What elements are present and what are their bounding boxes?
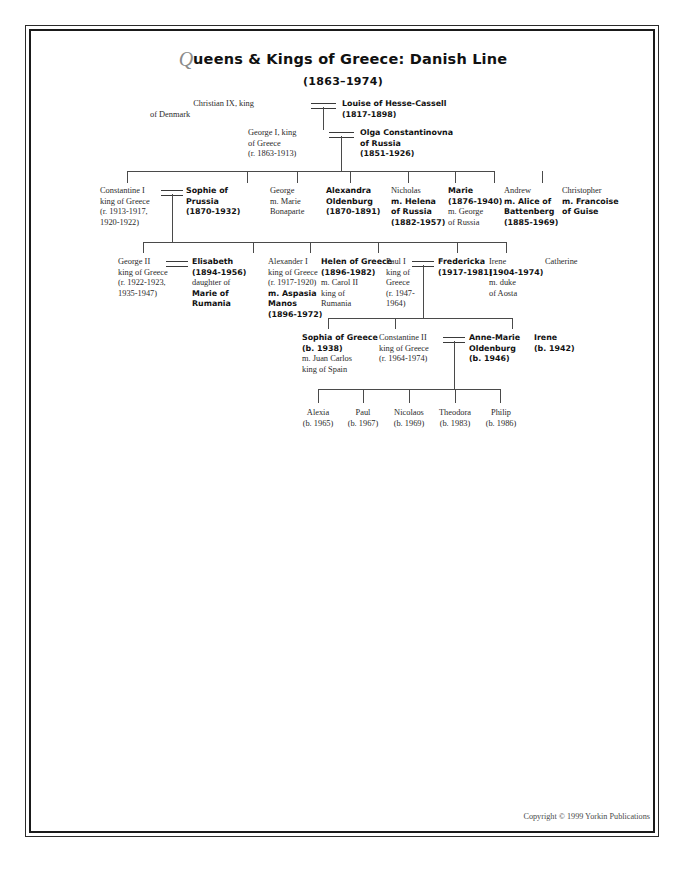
sibling-tick-alexandra <box>297 171 298 183</box>
node-helen-of-greece: Helen of Greece (1896-1982) m. Carol II … <box>321 257 392 310</box>
node-irene-1942: Irene (b. 1942) <box>534 333 575 354</box>
node-alexandra-oldenburg: Alexandra Oldenburg (1870-1891) <box>326 186 380 218</box>
chart-subtitle: (1863–1974) <box>0 75 686 88</box>
sibling-tick-helen <box>310 242 311 253</box>
connector-paul-to-gen5 <box>423 265 424 318</box>
node-child-theodora: Theodora (b. 1983) <box>430 408 480 429</box>
node-christian-ix: Christian IX, king of Denmark <box>150 99 254 120</box>
node-george: George m. Marie Bonaparte <box>270 186 304 218</box>
sibling-tick-george <box>247 171 248 183</box>
page-border-inner <box>29 29 655 833</box>
node-george-ii: George II king of Greece (r. 1922-1923, … <box>118 257 168 299</box>
sibling-tick-andrew <box>455 171 456 183</box>
node-child-nicolaos: Nicolaos (b. 1969) <box>384 408 434 429</box>
chart-title-block: Queens & Kings of Greece: Danish Line (1… <box>0 46 686 88</box>
marriage-line-george2-elisabeth <box>166 261 188 267</box>
connector-gen1-to-gen2 <box>323 107 324 130</box>
sibling-tick-irene <box>457 242 458 253</box>
node-louise-hesse-cassell: Louise of Hesse-Cassell (1817-1898) <box>342 99 446 120</box>
node-sophia-of-greece: Sophia of Greece (b. 1938) m. Juan Carlo… <box>302 333 378 375</box>
copyright-notice: Copyright © 1999 Yorkin Publications <box>0 812 650 821</box>
sibling-tick-constantine2 <box>395 318 396 329</box>
node-child-philip: Philip (b. 1986) <box>476 408 526 429</box>
node-paul-i: Paul I king of Greece (r. 1947- 1964) <box>386 257 415 310</box>
node-constantine-i: Constantine I king of Greece (r. 1913-19… <box>100 186 150 228</box>
node-christopher: Christopher m. Francoise of Guise <box>562 186 619 218</box>
title-text: ueens & Kings of Greece: Danish Line <box>193 51 507 67</box>
sibling-tick-george2 <box>143 242 144 253</box>
node-alexander-i: Alexander I king of Greece (r. 1917-1920… <box>268 257 322 321</box>
node-irene-1904: Irene (1904-1974) m. duke of Aosta <box>489 257 543 299</box>
sibling-tick-alexia <box>318 389 319 403</box>
node-nicholas: Nicholas m. Helena of Russia (1882-1957) <box>391 186 445 228</box>
sibling-bar-gen4 <box>143 242 506 243</box>
node-child-alexia: Alexia (b. 1965) <box>293 408 343 429</box>
sibling-tick-nicolaos <box>409 389 410 403</box>
node-george-i: George I, king of Greece (r. 1863-1913) <box>248 128 324 160</box>
sibling-tick-constantine <box>127 171 128 183</box>
sibling-tick-catherine <box>506 242 507 253</box>
node-child-paul: Paul (b. 1967) <box>338 408 388 429</box>
page-title: Queens & Kings of Greece: Danish Line <box>0 46 686 69</box>
sibling-tick-christopher-b <box>542 171 543 183</box>
node-anne-marie-oldenburg: Anne-Marie Oldenburg (b. 1946) <box>469 333 520 365</box>
node-marie: Marie (1876-1940) m. George of Russia <box>448 186 502 228</box>
connector-gen2-to-gen3 <box>341 136 342 171</box>
chart-page: Queens & Kings of Greece: Danish Line (1… <box>0 0 686 874</box>
node-olga-constantinovna: Olga Constantinovna of Russia (1851-1926… <box>360 128 453 160</box>
node-elisabeth: Elisabeth (1894-1956) daughter of Marie … <box>192 257 246 310</box>
sibling-tick-paul <box>378 242 379 253</box>
node-fredericka: Fredericka (1917-1981) <box>438 257 492 278</box>
sibling-tick-paul-1967 <box>363 389 364 403</box>
sibling-tick-philip <box>500 389 501 403</box>
node-constantine-ii: Constantine II king of Greece (r. 1964-1… <box>379 333 429 365</box>
sibling-tick-sophia <box>328 318 329 329</box>
sibling-bar-gen5 <box>328 318 512 319</box>
sibling-tick-nicholas <box>350 171 351 183</box>
node-sophie-of-prussia: Sophie of Prussia (1870-1932) <box>186 186 240 218</box>
node-catherine: Catherine <box>545 257 578 268</box>
connector-constantine-to-gen4 <box>172 194 173 242</box>
sibling-tick-christopher <box>494 171 495 183</box>
connector-constantine2-to-gen6 <box>454 341 455 389</box>
sibling-bar-gen3 <box>127 171 495 172</box>
node-andrew: Andrew m. Alice of Battenberg (1885-1969… <box>504 186 558 228</box>
sibling-tick-irene1942 <box>512 318 513 329</box>
sibling-tick-alexander <box>253 242 254 253</box>
sibling-tick-theodora <box>455 389 456 403</box>
sibling-tick-marie <box>408 171 409 183</box>
title-dropcap: Q <box>179 48 193 70</box>
